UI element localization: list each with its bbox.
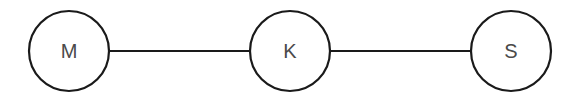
- node-m: M: [29, 11, 109, 91]
- node-s: S: [471, 11, 551, 91]
- node-k: K: [250, 11, 330, 91]
- node-m-label: M: [61, 40, 78, 62]
- node-s-label: S: [504, 40, 517, 62]
- node-k-label: K: [283, 40, 297, 62]
- graph-diagram: M K S: [0, 0, 582, 97]
